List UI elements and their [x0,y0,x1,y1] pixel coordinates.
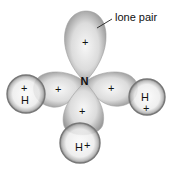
hydrogen-bottom-label: H [75,141,83,153]
lone-pair-label: lone pair [115,11,158,23]
hydrogen-bottom-charge: + [84,139,90,151]
lobe-right-charge: + [108,82,114,94]
hydrogen-right-charge: + [143,102,149,114]
orbital-lobes [34,11,138,135]
lobe-bottom-charge: + [79,105,85,117]
lobe-left-charge: + [55,83,61,95]
hydrogen-left-charge: + [21,82,27,94]
lobe-top-charge: + [82,36,88,48]
ammonia-orbital-diagram: lone pair N + + + + + H H + H + [0,0,171,170]
hydrogen-left-label: H [21,94,29,106]
nitrogen-label: N [81,75,89,87]
